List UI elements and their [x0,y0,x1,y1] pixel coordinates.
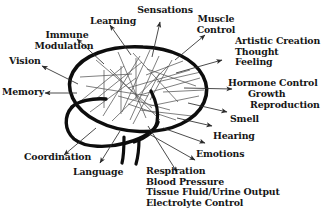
label-emotions: Emotions [196,149,244,160]
label-feeling: Feeling [235,57,320,68]
brain-functions-figure: Learning Sensations Immune Modulation Mu… [0,0,327,221]
label-memory: Memory [2,87,44,98]
label-group-autonomic: Respiration Blood Pressure Tissue Fluid/… [146,166,280,209]
label-coordination: Coordination [24,152,91,163]
label-group-artistic: Artistic Creation Thought Feeling [235,36,320,68]
label-reproduction: Reproduction [250,100,320,111]
arrow-muscle [175,35,205,60]
label-hearing: Hearing [213,131,255,142]
label-muscle: Muscle [190,14,242,25]
arrow-sensations [152,22,160,57]
arrow-hormone [184,88,232,89]
arrow-hearing [163,128,205,143]
label-vision: Vision [9,56,41,67]
label-smell: Smell [230,114,259,125]
arrow-reproduction [188,103,227,112]
label-hormone-control: Hormone Control [228,78,318,89]
label-growth: Growth [248,89,286,100]
label-modulation: Modulation [22,41,106,52]
label-sensations: Sensations [132,5,198,16]
arrow-learning [110,25,131,55]
label-immune: Immune [36,30,98,41]
label-electrolyte-control: Electrolyte Control [146,198,280,209]
label-learning: Learning [84,16,142,27]
label-language: Language [73,167,123,178]
neural-network-lines [80,50,204,124]
label-control: Control [188,25,244,36]
